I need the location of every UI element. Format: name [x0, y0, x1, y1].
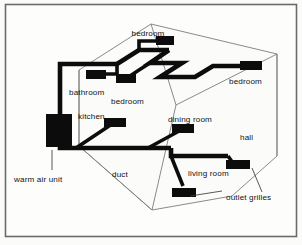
- outlet-grille-kitchen: [104, 118, 126, 127]
- label-bedroom-top: bedroom: [132, 29, 165, 38]
- label-living-room: living room: [188, 169, 229, 178]
- label-outlet-grilles: outlet grilles: [226, 193, 271, 202]
- label-bedroom-right: bedroom: [229, 77, 262, 86]
- label-duct: duct: [112, 170, 128, 179]
- warm-air-duct-diagram-canvas: bedroom bedroom bathroom bedroom kitchen…: [0, 0, 302, 245]
- outlet-grille-bedroom-right: [240, 61, 262, 70]
- diagram-figure: bedroom bedroom bathroom bedroom kitchen…: [0, 0, 302, 245]
- label-bathroom: bathroom: [69, 88, 105, 97]
- label-bedroom-mid: bedroom: [111, 97, 144, 106]
- label-hall: hall: [240, 133, 253, 142]
- outlet-grille-bedroom-mid: [116, 74, 136, 83]
- label-kitchen: kitchen: [78, 112, 105, 121]
- label-dining-room: dining room: [168, 115, 212, 124]
- outlet-grille-hall: [226, 160, 250, 169]
- outlet-grille-bathroom: [86, 70, 106, 79]
- outlet-grille-dining-room: [172, 124, 194, 133]
- label-warm-air-unit: warm air unit: [13, 175, 63, 184]
- warm-air-unit-box: [46, 114, 72, 147]
